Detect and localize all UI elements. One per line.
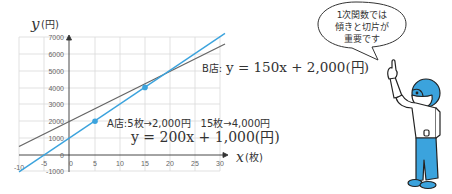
svg-text:1000: 1000 xyxy=(48,135,64,142)
svg-text:7000: 7000 xyxy=(48,34,64,41)
svg-text:15: 15 xyxy=(141,160,149,167)
b-store-prefix: B店: xyxy=(202,62,222,74)
y-axis-label: y xyxy=(30,15,40,33)
svg-text:5000: 5000 xyxy=(48,68,64,75)
svg-text:2000: 2000 xyxy=(48,118,64,125)
svg-text:20: 20 xyxy=(166,160,174,167)
speech-bubble: 1次関数では 傾きと切片が 重要です xyxy=(318,2,406,60)
svg-text:-1000: -1000 xyxy=(46,168,64,175)
a-store-data-label: A店:5枚→2,000円 15枚→4,000円 xyxy=(107,117,270,129)
y-axis-arrow-icon xyxy=(67,35,72,40)
x-axis-label: x xyxy=(236,149,244,165)
x-axis-arrow-icon xyxy=(223,153,228,158)
svg-text:-5: -5 xyxy=(41,160,47,167)
point-a-15 xyxy=(142,85,148,91)
chart-figure: 7000 6000 5000 4000 3000 2000 1000 0 -10… xyxy=(0,0,452,194)
point-a-5 xyxy=(92,118,98,124)
svg-text:6000: 6000 xyxy=(48,51,64,58)
svg-text:5: 5 xyxy=(93,160,97,167)
b-store-equation: y = 150x + 2,000(円) xyxy=(225,59,369,75)
a-store-equation: y = 200x + 1,000(円) xyxy=(130,129,280,145)
svg-text:0: 0 xyxy=(69,160,73,167)
svg-text:25: 25 xyxy=(191,160,199,167)
y-axis-unit: (円) xyxy=(41,19,59,30)
person-illustration xyxy=(388,60,440,189)
svg-text:0: 0 xyxy=(60,152,64,159)
x-axis-unit: (枚) xyxy=(245,151,263,163)
y-tick-labels: 7000 6000 5000 4000 3000 2000 1000 0 -10… xyxy=(46,34,64,175)
svg-text:3000: 3000 xyxy=(48,101,64,108)
bubble-line-1: 1次関数では xyxy=(337,9,388,20)
svg-text:30: 30 xyxy=(216,160,224,167)
bubble-line-2: 傾きと切片が xyxy=(335,21,389,32)
svg-text:4000: 4000 xyxy=(48,85,64,92)
bubble-line-3: 重要です xyxy=(344,33,380,44)
svg-text:10: 10 xyxy=(116,160,124,167)
